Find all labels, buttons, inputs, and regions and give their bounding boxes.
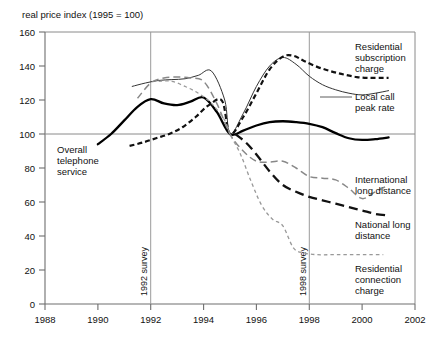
series-label-line: National long xyxy=(355,219,410,230)
y-tick-label: 80 xyxy=(24,163,35,174)
series-label-line: distance xyxy=(355,230,390,241)
x-tick-label: 1998 xyxy=(299,314,320,325)
series-label-line: charge xyxy=(355,63,384,74)
series-label-line: service xyxy=(57,166,87,177)
chart-axis-title: real price index (1995 = 100) xyxy=(22,9,143,20)
series-label-line: subscription xyxy=(355,52,406,63)
series-label-line: long distance xyxy=(355,185,411,196)
y-tick-label: 60 xyxy=(24,197,35,208)
series-label-line: telephone xyxy=(57,155,99,166)
y-tick-label: 160 xyxy=(19,27,35,38)
survey-label-1992: 1992 survey xyxy=(139,246,149,296)
price-index-chart: real price index (1995 = 100) xyxy=(0,0,439,337)
x-tick-label: 1994 xyxy=(193,314,214,325)
series-label-line: Residential xyxy=(355,41,402,52)
y-tick-label: 140 xyxy=(19,61,35,72)
y-tick-label: 20 xyxy=(24,265,35,276)
series-label-line: peak rate xyxy=(355,102,395,113)
series-label-line: charge xyxy=(355,285,384,296)
x-tick-label: 1992 xyxy=(140,314,161,325)
series-label-line: connection xyxy=(355,274,401,285)
series-label-line: Residential xyxy=(355,263,402,274)
series-label-international-long-distance: International long distance xyxy=(355,174,411,196)
x-tick-label: 2002 xyxy=(404,314,425,325)
series-label-line: International xyxy=(355,174,407,185)
x-tick-label: 1990 xyxy=(87,314,108,325)
x-tick-label: 1996 xyxy=(246,314,267,325)
x-tick-label: 2000 xyxy=(352,314,373,325)
y-tick-label: 0 xyxy=(30,299,35,310)
y-tick-label: 40 xyxy=(24,231,35,242)
x-tick-label: 1988 xyxy=(34,314,55,325)
series-label-line: Overall xyxy=(57,144,87,155)
series-label-line: Local call xyxy=(355,91,395,102)
y-tick-label: 100 xyxy=(19,129,35,140)
y-tick-label: 120 xyxy=(19,95,35,106)
